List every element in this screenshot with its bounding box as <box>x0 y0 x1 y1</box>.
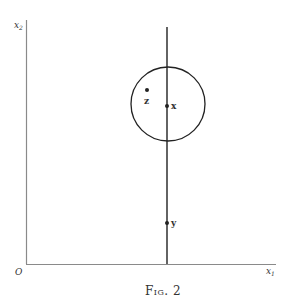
figure-caption: Fig. 2 <box>145 284 181 298</box>
figure-diagram: z x y O x2 x1 Fig. 2 <box>0 0 288 305</box>
origin-label: O <box>15 267 23 277</box>
point-z-label: z <box>144 96 149 106</box>
x1-axis-subscript: 1 <box>271 270 275 277</box>
point-z-dot <box>145 88 149 92</box>
point-x-dot <box>165 104 169 108</box>
point-x-label: x <box>171 101 177 111</box>
point-y-label: y <box>170 218 177 228</box>
x2-axis-label: x2 <box>14 20 23 31</box>
x2-axis-subscript: 2 <box>18 24 23 31</box>
neighborhood-circle <box>131 67 205 141</box>
point-y-dot <box>165 221 169 225</box>
x1-axis-label: x1 <box>266 266 275 277</box>
